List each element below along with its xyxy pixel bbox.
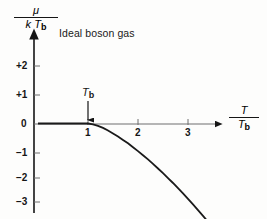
y-tick-label-m2: −2 [16,173,27,183]
x-tick-label-1: 1 [85,128,90,138]
x-tick-label-3: 3 [185,128,190,138]
y-tick-label-m1: −1 [16,148,27,158]
x-tick-label-2: 2 [135,128,140,138]
figure-container: μ k Tb T Tb Ideal boson gas +2 +1 0 −1 −… [0,0,267,219]
x-axis-title-numerator: T [229,105,259,117]
x-axis-title: T Tb [229,105,259,132]
y-tick-label-1: +1 [16,90,27,100]
y-tick-label-0: 0 [21,119,26,129]
y-tick-label-m3: −3 [16,197,27,207]
y-axis-ticks [34,66,40,202]
plot-title: Ideal boson gas [59,28,135,39]
y-axis-title: μ k Tb [14,5,58,32]
tb-annotation-label: Tb [82,86,94,100]
x-axis-title-denominator: Tb [229,118,259,132]
y-tick-label-2: +2 [16,61,27,71]
y-axis-title-numerator: μ [14,5,58,17]
y-axis-title-denominator: k Tb [14,18,58,32]
